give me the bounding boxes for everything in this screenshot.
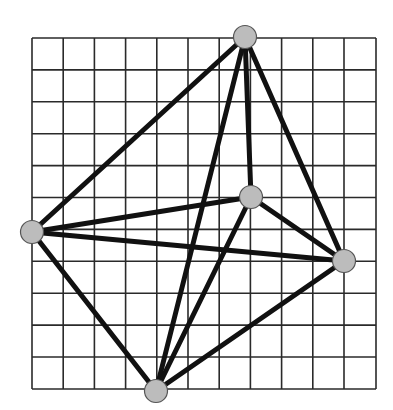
node-left: [21, 221, 44, 244]
node-bottom: [145, 380, 168, 403]
node-center: [240, 186, 263, 209]
node-top: [234, 26, 257, 49]
node-right: [333, 250, 356, 273]
k5-graph-diagram: [0, 0, 393, 410]
